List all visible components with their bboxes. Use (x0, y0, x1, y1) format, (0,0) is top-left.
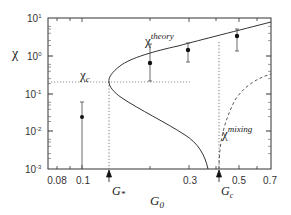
data-point (235, 34, 239, 38)
g-star-arrow-icon (107, 170, 112, 182)
theory-label: χtheory (144, 31, 174, 48)
g-c-arrow-icon (217, 170, 222, 182)
chi-c-label: χc (79, 67, 90, 84)
y-tick-labels: 101 100 10-1 10-2 10-3 (25, 13, 42, 175)
y-tick-label: 10-1 (25, 89, 42, 100)
y-tick-label: 101 (27, 13, 42, 24)
g-star-label: G* (112, 184, 126, 199)
data-point (80, 115, 84, 119)
y-tick-label: 100 (27, 51, 42, 62)
data-points (80, 34, 239, 119)
mixing-curve (219, 74, 271, 169)
x-tick-label: 0.08 (47, 175, 67, 186)
y-tick-label: 10-3 (25, 164, 42, 175)
x-tick-label: 0.7 (263, 175, 277, 186)
x-tick-label: 0.3 (183, 175, 197, 186)
chart: 101 100 10-1 10-2 10-3 0.08 0.1 0.3 0.5 … (0, 0, 291, 215)
y-axis-label: χ (11, 46, 19, 61)
data-point (148, 61, 152, 65)
x-axis-label: G0 (150, 193, 164, 210)
theory-curve (109, 22, 271, 169)
y-tick-label: 10-2 (25, 126, 42, 137)
mixing-label: χmixing (221, 124, 253, 141)
data-point (186, 48, 190, 52)
x-tick-label: 0.1 (76, 175, 90, 186)
x-tick-labels: 0.08 0.1 0.3 0.5 0.7 (47, 175, 277, 186)
g-c-label: Gc (221, 184, 234, 200)
y-minor-ticks (48, 26, 271, 158)
x-tick-label: 0.5 (232, 175, 246, 186)
